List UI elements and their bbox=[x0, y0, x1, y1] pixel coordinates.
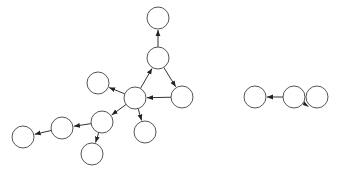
edge-n_center-to-n_left_upper bbox=[109, 88, 125, 94]
edge-n_mid-to-n_right bbox=[164, 67, 176, 86]
graph-node-n_lower_mid bbox=[91, 111, 113, 133]
graph-node-n_mid bbox=[147, 47, 169, 69]
graph-node-n_left_upper bbox=[87, 72, 109, 94]
edge-n_center-to-n_bottom_center bbox=[138, 109, 142, 121]
graph-node-n_left2 bbox=[51, 117, 73, 139]
edge-n_left2-to-n_far_left bbox=[35, 130, 52, 134]
graph-node-n_right bbox=[171, 86, 193, 108]
graph-node-n_far_left bbox=[12, 126, 34, 148]
edge-n_lower_mid-to-n_bottom bbox=[96, 132, 99, 142]
graph-node-n_bottom bbox=[81, 143, 103, 165]
graph-node-r_mid bbox=[283, 86, 305, 108]
edge-n_lower_mid-to-n_left2 bbox=[74, 124, 91, 127]
self-loop-r_mid bbox=[306, 86, 328, 108]
graph-node-n_center bbox=[124, 87, 146, 109]
graph-node-n_top bbox=[147, 7, 169, 29]
graph-canvas bbox=[0, 0, 340, 174]
graph-node-r_left bbox=[244, 86, 266, 108]
edge-n_center-to-n_lower_mid bbox=[112, 104, 126, 114]
edge-n_center-to-n_mid bbox=[140, 68, 152, 88]
graph-node-n_bottom_center bbox=[134, 121, 156, 143]
edge-n_right-to-n_center bbox=[147, 97, 171, 98]
